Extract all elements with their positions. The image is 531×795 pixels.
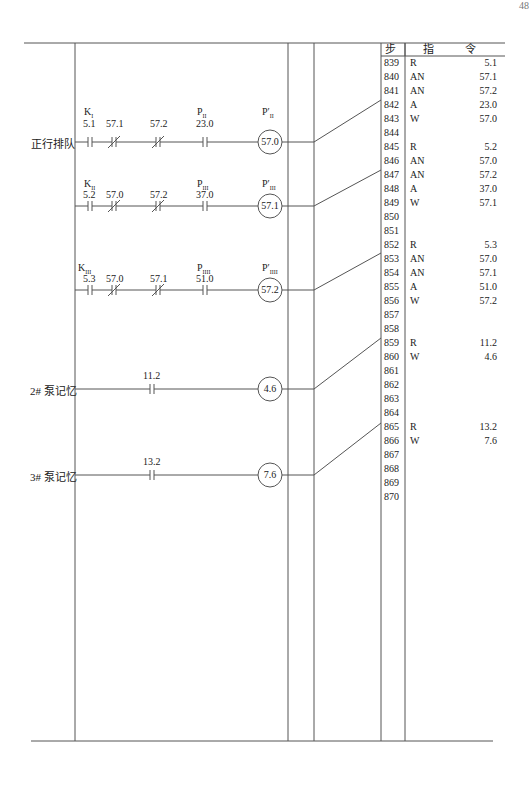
cell-addr: 5.3 [485,238,498,252]
rung-label-forward-queue: 正行排队 [31,135,75,151]
rung-label-pump3-memory: 3# 泵记忆 [30,468,77,484]
table-row: 853AN57.0 [381,252,493,266]
cell-step: 856 [384,294,404,308]
cell-step: 851 [384,224,404,238]
coil-tag: P′IIII [262,262,278,275]
cell-step: 841 [384,84,404,98]
coil-address: 57.1 [252,200,288,211]
cell-step: 859 [384,336,404,350]
rung-label-pump2-memory: 2# 泵记忆 [30,382,77,398]
cell-addr: 57.2 [480,168,498,182]
cell-addr: 37.0 [480,182,498,196]
header-instruction: 指 令 [423,42,490,56]
table-row: 840AN57.1 [381,70,493,84]
cell-step: 864 [384,406,404,420]
table-row: 862 [381,378,493,392]
cell-addr: 57.0 [480,154,498,168]
cell-step: 857 [384,308,404,322]
cell-addr: 57.1 [480,196,498,210]
cell-op: A [410,98,417,112]
cell-step: 847 [384,168,404,182]
cell-op: W [410,112,419,126]
table-row: 864 [381,406,493,420]
contact-address: 11.2 [143,370,160,381]
table-row: 868 [381,462,493,476]
cell-op: A [410,182,417,196]
cell-op: R [410,420,417,434]
cell-addr: 57.2 [480,84,498,98]
cell-step: 868 [384,462,404,476]
cell-op: W [410,294,419,308]
contact-address: 13.2 [143,456,161,467]
table-header: 步 指 令 [381,42,493,56]
table-row: 865R13.2 [381,420,493,434]
table-row: 869 [381,476,493,490]
contact-address: 5.3 [83,273,96,284]
cell-step: 844 [384,126,404,140]
table-row: 841AN57.2 [381,84,493,98]
cell-step: 843 [384,112,404,126]
coil-address: 57.0 [252,136,288,147]
table-row: 857 [381,308,493,322]
coil-tag: P′III [262,178,276,191]
cell-op: AN [410,252,424,266]
table-row: 858 [381,322,493,336]
table-row: 849W57.1 [381,196,493,210]
table-row: 846AN57.0 [381,154,493,168]
contact-address: 5.1 [83,118,96,129]
cell-step: 862 [384,378,404,392]
cell-op: AN [410,84,424,98]
cell-op: W [410,196,419,210]
instruction-table: 步 指 令 839R5.1840AN57.1841AN57.2842A23.08… [381,42,493,504]
cell-step: 854 [384,266,404,280]
cell-step: 845 [384,140,404,154]
table-row: 839R5.1 [381,56,493,70]
table-row: 848A37.0 [381,182,493,196]
header-step: 步 [385,42,396,56]
contact-address: 57.0 [106,189,124,200]
cell-step: 848 [384,182,404,196]
contact-address: 57.2 [150,189,168,200]
cell-step: 839 [384,56,404,70]
cell-step: 869 [384,476,404,490]
cell-step: 858 [384,322,404,336]
cell-addr: 57.2 [480,294,498,308]
cell-op: AN [410,266,424,280]
contact-address: 57.2 [150,118,168,129]
cell-step: 860 [384,350,404,364]
cell-op: A [410,280,417,294]
cell-step: 870 [384,490,404,504]
contact-address: 37.0 [196,189,214,200]
cell-addr: 5.2 [485,140,498,154]
table-row: 859R11.2 [381,336,493,350]
coil-tag: P′II [262,106,274,119]
cell-step: 866 [384,434,404,448]
cell-step: 840 [384,70,404,84]
contact-address: 51.0 [196,273,214,284]
cell-op: R [410,336,417,350]
contact-address: 57.1 [106,118,124,129]
table-row: 850 [381,210,493,224]
contact-address: 23.0 [196,118,214,129]
cell-op: R [410,238,417,252]
table-row: 852R5.3 [381,238,493,252]
cell-op: W [410,350,419,364]
cell-step: 855 [384,280,404,294]
table-row: 845R5.2 [381,140,493,154]
cell-op: AN [410,154,424,168]
cell-step: 849 [384,196,404,210]
cell-addr: 4.6 [485,350,498,364]
cell-op: W [410,434,419,448]
cell-addr: 13.2 [480,420,498,434]
coil-address: 57.2 [252,284,288,295]
cell-addr: 7.6 [485,434,498,448]
cell-addr: 23.0 [480,98,498,112]
contact-address: 57.1 [150,273,168,284]
cell-step: 853 [384,252,404,266]
cell-step: 846 [384,154,404,168]
table-row: 842A23.0 [381,98,493,112]
cell-addr: 5.1 [485,56,498,70]
table-row: 844 [381,126,493,140]
coil-address: 7.6 [252,469,288,480]
cell-op: AN [410,70,424,84]
